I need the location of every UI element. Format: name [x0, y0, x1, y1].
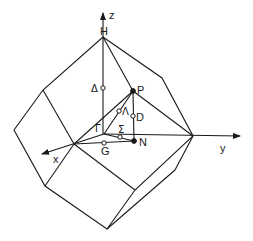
gamma-label: Γ: [95, 123, 101, 134]
delta-point: [101, 86, 105, 90]
z-axis-label: z: [109, 9, 115, 21]
sigma-label: Σ: [118, 124, 124, 135]
n-label: N: [139, 136, 147, 148]
y-axis-label: y: [220, 142, 226, 154]
p-label: P: [137, 84, 144, 96]
x-axis-label: x: [53, 153, 59, 165]
delta-label: Δ: [91, 83, 98, 94]
n-point: [132, 139, 137, 144]
symmetry-lines: [74, 91, 134, 144]
lambda-label: Λ: [122, 106, 129, 117]
y-axis: [104, 134, 240, 136]
p-point: [131, 89, 136, 94]
x-axis: [42, 134, 104, 154]
brillouin-zone-diagram: z y x H P N Γ Δ Λ D Σ G: [0, 0, 253, 241]
h-label: H: [100, 25, 108, 37]
d-point: [131, 114, 135, 118]
lambda-point: [117, 109, 121, 113]
g-label: G: [101, 145, 110, 157]
d-label: D: [136, 111, 144, 123]
sigma-point: [118, 135, 122, 139]
